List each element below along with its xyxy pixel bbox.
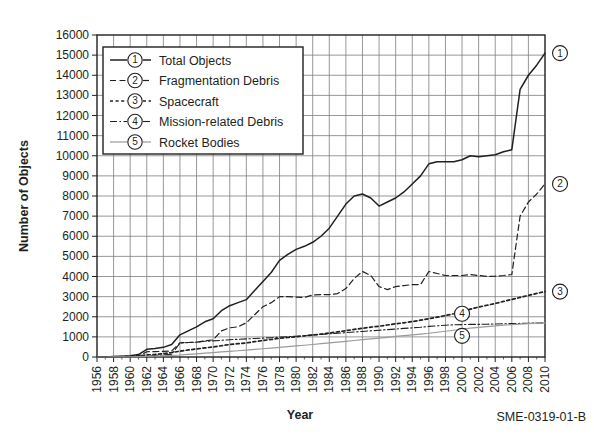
chart-caption: SME-0319-01-B [496,410,586,424]
legend-item-2[interactable]: 2Fragmentation Debris [110,73,279,88]
y-tick-label: 0 [82,350,89,364]
x-tick-label: 1980 [289,366,303,393]
x-tick-label: 1976 [256,366,270,393]
end-marker-2: 2 [553,176,568,191]
y-tick-label: 13000 [56,88,90,102]
x-tick-label: 1966 [173,366,187,393]
y-tick-label: 6000 [62,229,89,243]
x-tick-label: 2002 [472,366,486,393]
x-tick-label: 1992 [389,366,403,393]
marker-label: 4 [132,116,138,127]
y-tick-label: 5000 [62,249,89,263]
marker-label: 3 [132,95,138,106]
y-tick-label: 15000 [56,48,90,62]
x-tick-label: 1994 [405,366,419,393]
legend-item-label: Mission-related Debris [159,115,283,129]
marker-label: 1 [557,48,563,59]
y-tick-label: 3000 [62,290,89,304]
x-tick-label: 1986 [339,366,353,393]
x-tick-label: 1978 [273,366,287,393]
inline-marker-5: 5 [455,328,470,343]
y-tick-label: 12000 [56,109,90,123]
legend-marker-3: 3 [128,94,142,108]
legend-marker-1: 1 [128,53,142,67]
x-tick-label: 1968 [190,366,204,393]
inline-marker-4: 4 [455,306,470,321]
legend-item-label: Spacecraft [159,95,219,109]
legend-marker-4: 4 [128,114,142,128]
x-tick-label: 1988 [355,366,369,393]
x-tick-label: 1984 [322,366,336,393]
legend-item-label: Rocket Bodies [159,136,240,150]
y-tick-label: 7000 [62,209,89,223]
x-tick-label: 1998 [438,366,452,393]
x-tick-label: 2006 [505,366,519,393]
legend-item-5[interactable]: 5Rocket Bodies [110,135,240,150]
y-tick-label: 8000 [62,189,89,203]
y-tick-label: 16000 [56,28,90,42]
x-axis-title: Year [287,408,314,422]
x-tick-label: 1996 [422,366,436,393]
x-tick-label: 1956 [90,366,104,393]
legend-marker-5: 5 [128,135,142,149]
y-axis-title: Number of Objects [17,140,31,252]
y-tick-label: 9000 [62,169,89,183]
x-tick-label: 1958 [107,366,121,393]
x-tick-label: 2004 [488,366,502,393]
y-tick-label: 2000 [62,310,89,324]
y-tick-label: 14000 [56,68,90,82]
x-tick-label: 2008 [521,366,535,393]
marker-label: 5 [132,136,138,147]
end-marker-1: 1 [553,46,568,61]
x-tick-label: 1970 [206,366,220,393]
x-tick-label: 2010 [538,366,552,393]
orbital-debris-chart: 0100020003000400050006000700080009000100… [0,0,594,442]
legend-marker-2: 2 [128,73,142,87]
marker-label: 2 [132,75,138,86]
x-tick-label: 1962 [140,366,154,393]
marker-label: 1 [132,54,138,65]
x-tick-label: 1964 [156,366,170,393]
marker-label: 2 [557,178,563,189]
x-tick-label: 2000 [455,366,469,393]
y-tick-label: 11000 [57,129,90,143]
x-tick-label: 1982 [306,366,320,393]
y-tick-label: 1000 [62,330,89,344]
end-marker-3: 3 [553,284,568,299]
marker-label: 4 [459,308,465,319]
x-tick-label: 1960 [123,366,137,393]
marker-label: 3 [557,286,563,297]
marker-label: 5 [459,330,465,341]
y-tick-label: 10000 [56,149,90,163]
y-tick-label: 4000 [62,270,89,284]
legend-item-label: Total Objects [159,54,231,68]
chart-legend[interactable]: 1Total Objects2Fragmentation Debris3Spac… [103,47,303,154]
legend-item-label: Fragmentation Debris [159,74,279,88]
x-tick-label: 1974 [239,366,253,393]
x-tick-label: 1972 [223,366,237,393]
chart-canvas: 0100020003000400050006000700080009000100… [0,0,594,442]
legend-item-4[interactable]: 4Mission-related Debris [110,114,283,129]
x-tick-label: 1990 [372,366,386,393]
